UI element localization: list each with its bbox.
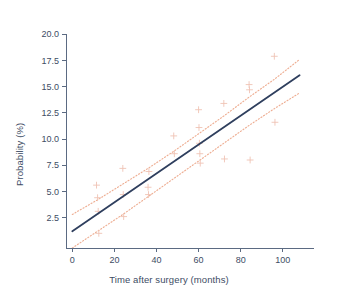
y-tick-label: 7.5	[46, 160, 59, 170]
regression-scatter-plot: 2.55.07.510.012.515.017.520.0 0204060801…	[0, 0, 338, 303]
x-axis-title: Time after surgery (months)	[0, 274, 338, 285]
y-tick-label: 2.5	[46, 213, 59, 223]
x-tick-label: 60	[194, 255, 204, 265]
x-tick-label: 100	[275, 255, 290, 265]
x-tick-label: 20	[109, 255, 119, 265]
figure-container: 2.55.07.510.012.515.017.520.0 0204060801…	[0, 0, 338, 303]
y-tick-label: 20.0	[41, 29, 59, 39]
y-tick-label: 12.5	[41, 108, 59, 118]
x-tick-label: 80	[236, 255, 246, 265]
y-axis-title: Probability (%)	[14, 123, 25, 186]
x-tick-label: 0	[70, 255, 75, 265]
y-tick-label: 5.0	[46, 187, 59, 197]
figure-caption	[18, 293, 328, 303]
y-tick-label: 10.0	[41, 134, 59, 144]
y-tick-label: 17.5	[41, 56, 59, 66]
x-tick-label: 40	[151, 255, 161, 265]
y-tick-label: 15.0	[41, 82, 59, 92]
